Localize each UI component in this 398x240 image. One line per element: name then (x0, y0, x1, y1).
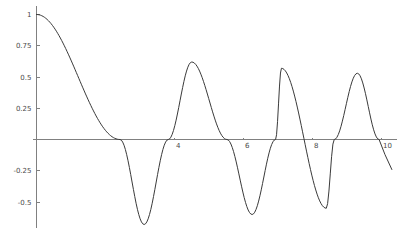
y-tick-label: 1 (27, 11, 31, 19)
y-tick-label: 0.75 (16, 42, 32, 50)
data-curve (37, 15, 392, 225)
x-tick-label: 6 (245, 142, 250, 150)
plot-figure: 46810 10.750.50.25-0.25-0.5 (0, 0, 398, 240)
data-series-group (37, 15, 392, 225)
axes-group (33, 6, 398, 228)
y-tick-label: 0.5 (20, 74, 31, 82)
x-tick-label: 8 (314, 142, 318, 150)
y-tick-label: 0.25 (16, 105, 32, 113)
x-tick-label: 4 (176, 142, 181, 150)
y-tick-group: 10.750.50.25-0.25-0.5 (13, 11, 39, 207)
x-tick-label: 10 (383, 142, 392, 150)
y-tick-label: -0.5 (18, 199, 32, 207)
y-tick-label: -0.25 (13, 167, 31, 175)
chart-canvas: 46810 10.750.50.25-0.25-0.5 (0, 0, 398, 240)
